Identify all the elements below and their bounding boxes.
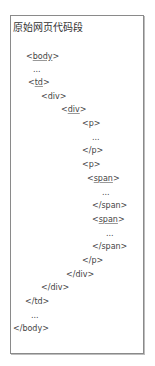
code-line-span-open: <span> (87, 174, 120, 184)
code-line-ellipsis: ... (102, 188, 110, 198)
code-line-div-close: </div> (41, 283, 69, 293)
code-line-ellipsis: ... (33, 65, 41, 75)
code-line-ellipsis: ... (92, 133, 100, 143)
snippet-title: 原始网页代码段 (13, 19, 83, 34)
code-line-p-close: </p> (82, 146, 103, 156)
code-line-span-close: </span> (92, 242, 127, 252)
code-line-p-open: <p> (82, 160, 100, 170)
code-line-span-open: <span> (92, 215, 125, 225)
code-line-ellipsis: ... (31, 311, 39, 321)
code-line-div-open: <div> (41, 92, 66, 102)
code-line-div-open-inner: <div> (61, 105, 86, 115)
code-line-body-close: </body> (13, 324, 49, 334)
code-line-div-close-inner: </div> (66, 270, 94, 280)
code-line-p-open: <p> (82, 119, 100, 129)
code-line-td-close: </td> (25, 297, 49, 307)
code-line-ellipsis: ... (106, 229, 114, 239)
code-line-body-open: <body> (26, 52, 59, 62)
code-line-span-close: </span> (92, 201, 127, 211)
code-line-td-open: <td> (28, 78, 50, 88)
code-line-p-close: </p> (82, 256, 103, 266)
